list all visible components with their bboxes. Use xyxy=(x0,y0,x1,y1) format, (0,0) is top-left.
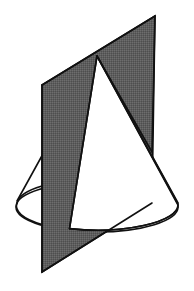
cone-plane-diagram: Cone intersected by a plane A shaded par… xyxy=(0,0,194,291)
figure-canvas: Cone intersected by a plane A shaded par… xyxy=(0,0,194,291)
